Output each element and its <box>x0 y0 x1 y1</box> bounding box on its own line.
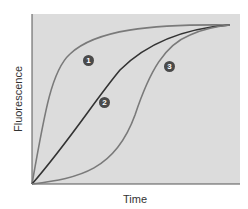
curve-1-label: 1 <box>83 55 94 66</box>
curve-2-label: 2 <box>99 97 110 108</box>
curve-3-label: 3 <box>164 61 175 72</box>
plot-area <box>32 14 240 184</box>
x-axis-label: Time <box>110 193 160 205</box>
chart-canvas <box>0 0 248 209</box>
y-axis-label: Fluorescence <box>12 59 24 139</box>
